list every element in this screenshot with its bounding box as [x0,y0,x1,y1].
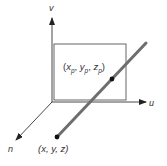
viewing-diagram: v u n (xp, yp, zp) (x, y, z) [0,0,167,166]
source-point-dot [55,135,60,140]
v-axis-label: v [49,3,54,13]
u-axis-label: u [149,98,154,108]
projected-point-dot [110,77,115,82]
source-point-label: (x, y, z) [38,143,68,154]
n-axis [16,102,52,140]
projected-point-label: (xp, yp, zp) [63,61,105,75]
n-axis-label: n [8,144,13,154]
projector-line [57,43,146,137]
view-plane [54,44,126,100]
